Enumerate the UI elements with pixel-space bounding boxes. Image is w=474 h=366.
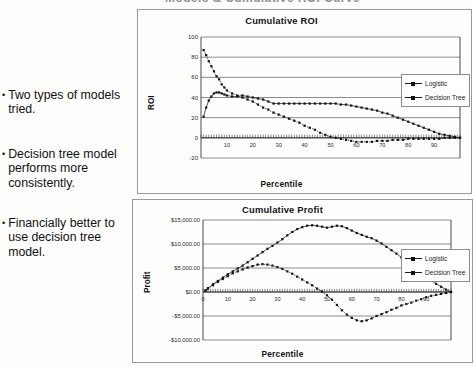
svg-text:60: 60 (349, 296, 355, 302)
svg-text:-20: -20 (189, 155, 198, 161)
svg-text:40: 40 (301, 142, 307, 148)
legend-label: Logistic (425, 255, 447, 262)
chart-legend-roi: Logistic Decision Tree (401, 74, 470, 107)
legend-item-decision-tree: Decision Tree (405, 92, 465, 103)
svg-text:$10,000.00: $10,000.00 (171, 241, 200, 247)
slide-canvas: Models & Cumulative ROI Curve • Two type… (0, 0, 474, 366)
legend-marker-icon (405, 80, 422, 87)
svg-text:70: 70 (379, 142, 385, 148)
legend-item-logistic: Logistic (405, 253, 465, 264)
svg-text:70: 70 (373, 296, 379, 302)
legend-marker-icon (405, 269, 422, 276)
bullet-text: Two types of models tried. (8, 88, 134, 117)
svg-text:20: 20 (249, 296, 255, 302)
svg-text:60: 60 (191, 74, 198, 80)
svg-text:80: 80 (405, 142, 411, 148)
svg-text:30: 30 (274, 296, 280, 302)
list-item: • Two types of models tried. (2, 88, 134, 117)
svg-text:20: 20 (191, 115, 198, 121)
svg-text:20: 20 (250, 142, 256, 148)
svg-text:10: 10 (225, 296, 231, 302)
svg-text:-$5,000.00: -$5,000.00 (172, 313, 200, 319)
legend-label: Decision Tree (425, 269, 465, 276)
svg-text:80: 80 (398, 296, 404, 302)
svg-text:80: 80 (191, 54, 198, 60)
svg-text:40: 40 (191, 95, 198, 101)
chart-legend-profit: Logistic Decision Tree (401, 249, 470, 282)
legend-marker-icon (405, 255, 422, 262)
svg-text:-$10,000.00: -$10,000.00 (169, 337, 200, 343)
legend-label: Decision Tree (425, 94, 465, 101)
list-item: • Financially better to use decision tre… (2, 216, 134, 259)
svg-text:30: 30 (276, 142, 282, 148)
slide-title: Models & Cumulative ROI Curve (155, 0, 370, 3)
svg-text:$15,000.00: $15,000.00 (171, 217, 200, 223)
svg-text:50: 50 (327, 142, 333, 148)
svg-text:10: 10 (224, 142, 230, 148)
bullet-marker-icon: • (2, 88, 5, 103)
svg-text:100: 100 (188, 34, 199, 40)
svg-text:40: 40 (299, 296, 305, 302)
svg-text:90: 90 (431, 142, 437, 148)
x-axis-title-profit: Percentile (93, 349, 472, 359)
x-axis-title-roi: Percentile (92, 179, 471, 189)
svg-text:$5,000.00: $5,000.00 (174, 265, 200, 271)
legend-label: Logistic (425, 80, 447, 87)
legend-marker-icon (405, 94, 422, 101)
legend-item-logistic: Logistic (405, 78, 465, 89)
bullet-marker-icon: • (2, 216, 5, 231)
svg-text:$0.00: $0.00 (185, 289, 200, 295)
svg-text:0: 0 (201, 296, 204, 302)
bullet-marker-icon: • (2, 147, 5, 162)
bullet-text: Financially better to use decision tree … (8, 216, 134, 259)
svg-text:0: 0 (195, 135, 199, 141)
legend-item-decision-tree: Decision Tree (405, 267, 465, 278)
